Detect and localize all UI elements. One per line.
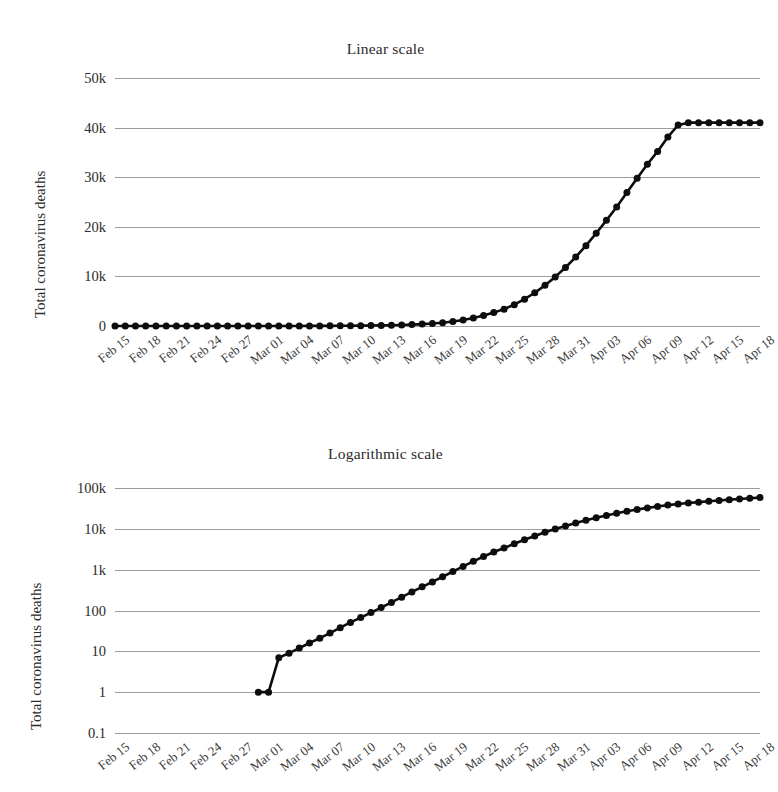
data-point-marker — [613, 203, 620, 210]
data-point-marker — [511, 540, 518, 547]
linear-chart-y-axis-label: Total coronavirus deaths — [32, 171, 49, 318]
x-axis-tick-label: Mar 19 — [431, 739, 471, 775]
data-point-marker — [644, 504, 651, 511]
log-chart-x-axis-ticks: Feb 15Feb 18Feb 21Feb 24Feb 27Mar 01Mar … — [115, 733, 760, 792]
data-point-marker — [736, 119, 743, 126]
data-point-marker — [695, 499, 702, 506]
x-axis-tick-label: Mar 28 — [523, 332, 563, 368]
data-point-marker — [460, 317, 467, 324]
data-point-marker — [480, 553, 487, 560]
x-axis-tick-label: Mar 04 — [277, 739, 317, 775]
data-point-marker — [408, 588, 415, 595]
log-scale-chart-panel: Logarithmic scale Total coronavirus deat… — [0, 400, 771, 792]
y-axis-tick-label: 50k — [84, 70, 106, 87]
x-axis-tick-label: Apr 12 — [678, 739, 717, 774]
x-axis-tick-label: Mar 10 — [339, 332, 379, 368]
y-axis-tick-label: 1 — [99, 684, 106, 701]
x-axis-tick-label: Apr 03 — [586, 332, 625, 367]
data-point-marker — [275, 654, 282, 661]
linear-chart-x-axis-ticks: Feb 15Feb 18Feb 21Feb 24Feb 27Mar 01Mar … — [115, 326, 760, 396]
data-point-marker — [398, 594, 405, 601]
data-point-marker — [367, 609, 374, 616]
data-point-marker — [521, 536, 528, 543]
data-point-marker — [296, 645, 303, 652]
x-axis-tick-label: Apr 06 — [616, 332, 655, 367]
data-point-marker — [388, 599, 395, 606]
data-point-marker — [265, 689, 272, 696]
data-point-marker — [449, 568, 456, 575]
data-point-marker — [716, 497, 723, 504]
x-axis-tick-label: Feb 15 — [95, 739, 133, 774]
data-point-marker — [582, 242, 589, 249]
y-axis-tick-label: 100 — [84, 602, 106, 619]
data-point-marker — [531, 532, 538, 539]
data-point-marker — [357, 614, 364, 621]
x-axis-tick-label: Feb 15 — [95, 332, 133, 367]
data-point-marker — [429, 578, 436, 585]
data-point-marker — [449, 318, 456, 325]
data-point-marker — [521, 296, 528, 303]
x-axis-tick-label: Feb 24 — [187, 739, 225, 774]
x-axis-tick-label: Mar 25 — [492, 332, 532, 368]
data-point-marker — [286, 650, 293, 657]
x-axis-tick-label: Mar 25 — [492, 739, 532, 775]
y-axis-tick-label: 1k — [92, 561, 107, 578]
x-axis-tick-label: Mar 04 — [277, 332, 317, 368]
x-axis-tick-label: Apr 18 — [739, 739, 778, 774]
data-point-marker — [490, 309, 497, 316]
x-axis-tick-label: Feb 18 — [126, 332, 164, 367]
data-point-marker — [664, 502, 671, 509]
x-axis-tick-label: Feb 21 — [156, 739, 194, 774]
data-point-marker — [644, 161, 651, 168]
x-axis-tick-label: Feb 27 — [218, 332, 256, 367]
x-axis-tick-label: Apr 12 — [678, 332, 717, 367]
x-axis-tick-label: Apr 09 — [647, 739, 686, 774]
data-point-marker — [746, 119, 753, 126]
data-point-marker — [542, 529, 549, 536]
data-point-marker — [337, 624, 344, 631]
linear-chart-series — [115, 78, 760, 326]
data-point-marker — [470, 315, 477, 322]
x-axis-tick-label: Apr 18 — [739, 332, 778, 367]
data-point-marker — [562, 264, 569, 271]
data-point-marker — [480, 312, 487, 319]
y-axis-tick-label: 0 — [99, 318, 106, 335]
data-point-marker — [347, 619, 354, 626]
x-axis-tick-label: Apr 15 — [709, 739, 748, 774]
data-point-marker — [460, 563, 467, 570]
data-point-marker — [603, 217, 610, 224]
x-axis-tick-label: Mar 07 — [308, 332, 348, 368]
x-axis-tick-label: Mar 16 — [400, 332, 440, 368]
data-point-marker — [552, 526, 559, 533]
data-point-marker — [736, 495, 743, 502]
data-point-marker — [685, 499, 692, 506]
x-axis-tick-label: Mar 19 — [431, 332, 471, 368]
data-point-marker — [675, 122, 682, 129]
data-point-marker — [623, 508, 630, 515]
log-chart-title: Logarithmic scale — [0, 445, 771, 463]
log-chart-plot-area: 0.11101001k10k100k Feb 15Feb 18Feb 21Feb… — [115, 488, 760, 733]
data-point-marker — [634, 175, 641, 182]
y-axis-tick-label: 0.1 — [88, 725, 106, 742]
data-point-marker — [378, 604, 385, 611]
data-point-marker — [746, 495, 753, 502]
data-point-marker — [664, 134, 671, 141]
x-axis-tick-label: Apr 15 — [709, 332, 748, 367]
data-point-marker — [726, 496, 733, 503]
y-axis-tick-label: 20k — [84, 218, 106, 235]
data-point-marker — [716, 119, 723, 126]
data-point-marker — [572, 519, 579, 526]
data-point-marker — [726, 119, 733, 126]
x-axis-tick-label: Mar 13 — [370, 739, 410, 775]
x-axis-tick-label: Mar 10 — [339, 739, 379, 775]
data-point-marker — [613, 510, 620, 517]
x-axis-tick-label: Feb 24 — [187, 332, 225, 367]
data-point-marker — [654, 503, 661, 510]
x-axis-tick-label: Apr 09 — [647, 332, 686, 367]
data-point-marker — [603, 512, 610, 519]
data-point-marker — [306, 640, 313, 647]
y-axis-tick-label: 40k — [84, 119, 106, 136]
y-axis-tick-label: 100k — [77, 480, 106, 497]
log-chart-series — [115, 488, 760, 733]
y-axis-tick-label: 10k — [84, 268, 106, 285]
